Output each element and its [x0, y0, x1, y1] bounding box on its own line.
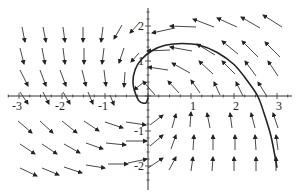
field-arrow — [207, 113, 210, 128]
field-arrow — [172, 63, 190, 73]
field-arrow — [101, 27, 103, 42]
field-arrow — [106, 143, 126, 145]
field-arrow — [230, 113, 232, 128]
field-arrow — [222, 41, 238, 54]
field-arrow — [190, 112, 191, 127]
field-arrow — [20, 70, 28, 86]
field-arrow — [105, 122, 123, 128]
field-arrow — [217, 18, 237, 27]
x-tick-label: -3 — [12, 99, 22, 113]
field-arrow — [150, 115, 163, 125]
field-arrow — [62, 121, 77, 133]
field-arrow — [104, 70, 106, 86]
field-arrow — [18, 121, 32, 133]
x-tick-label: 1 — [190, 99, 196, 113]
field-arrow — [152, 28, 175, 33]
field-arrow — [88, 92, 93, 104]
field-arrow — [212, 157, 213, 171]
field-arrow — [22, 27, 25, 42]
field-arrow — [251, 113, 255, 128]
field-arrow — [40, 121, 53, 133]
field-arrow — [273, 113, 278, 128]
field-arrow — [214, 82, 220, 95]
field-arrow — [169, 157, 176, 170]
field-arrow — [191, 80, 200, 93]
x-tick-label: 2 — [233, 99, 239, 113]
x-tick-label: 3 — [276, 99, 282, 113]
field-arrow — [119, 48, 124, 63]
field-arrow — [258, 82, 266, 95]
field-arrow — [42, 144, 57, 154]
field-arrow — [148, 158, 163, 168]
field-arrow — [134, 82, 144, 90]
field-arrow — [268, 61, 278, 76]
field-arrow — [143, 81, 155, 95]
field-arrow — [276, 135, 278, 150]
field-arrow — [40, 70, 46, 86]
field-arrow — [43, 92, 49, 104]
field-arrow — [60, 70, 66, 86]
y-tick-label: -1 — [134, 124, 144, 138]
y-tick-label: 1 — [138, 54, 144, 68]
field-arrow — [171, 135, 176, 149]
field-arrow — [124, 72, 125, 87]
solution-trajectory — [133, 44, 277, 168]
field-arrow — [241, 17, 260, 28]
x-tick-label: -2 — [55, 99, 65, 113]
field-arrow — [242, 41, 258, 57]
field-arrow — [255, 135, 256, 150]
field-arrow — [172, 114, 176, 128]
field-arrow — [193, 135, 194, 150]
field-arrow — [64, 167, 82, 173]
field-arrow — [102, 48, 104, 64]
field-arrow — [236, 82, 243, 96]
field-arrow — [114, 25, 122, 39]
field-arrow — [63, 48, 65, 64]
field-arrow — [245, 61, 256, 76]
field-arrow — [20, 144, 35, 154]
field-arrow — [191, 157, 193, 171]
field-arrow — [86, 143, 103, 149]
field-arrow — [199, 61, 213, 74]
field-arrow — [42, 48, 45, 64]
field-arrow — [148, 67, 168, 70]
y-tick-label: 2 — [138, 19, 144, 33]
y-tick-label: -2 — [134, 159, 144, 173]
field-arrow — [170, 26, 196, 27]
field-arrow — [86, 165, 105, 168]
field-arrow — [150, 135, 163, 146]
field-arrow — [168, 81, 179, 93]
field-arrow — [170, 47, 192, 51]
field-arrow — [82, 70, 86, 86]
field-arrow — [263, 15, 282, 27]
field-arrow — [42, 168, 59, 175]
field-arrow — [265, 42, 280, 57]
x-tick-label: -1 — [98, 99, 108, 113]
field-arrow — [193, 19, 214, 27]
field-arrow — [20, 48, 24, 64]
field-arrow — [84, 121, 99, 131]
field-arrow — [63, 27, 65, 42]
field-arrow — [64, 144, 80, 153]
field-arrow — [43, 27, 46, 42]
direction-field-plot: -3-2-1123 21-1-2 — [0, 0, 298, 194]
field-arrow — [20, 168, 37, 176]
